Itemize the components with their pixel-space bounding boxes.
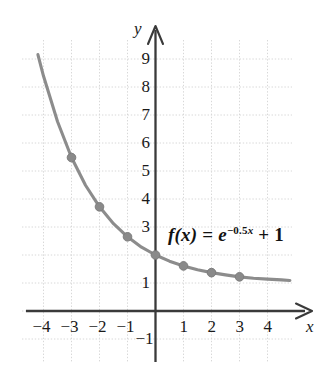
x-tick-label: −1	[117, 318, 135, 335]
exponential-function-chart: y x −4−3−2−11234 −113456789 f(x) = e−0.5…	[0, 0, 331, 385]
formula-plus: +	[253, 224, 274, 245]
x-tick-label: −2	[89, 318, 107, 335]
data-point-marker	[179, 262, 188, 271]
data-point-marker	[95, 203, 104, 212]
y-axis-label: y	[134, 20, 142, 37]
y-tick-label: 8	[142, 78, 151, 95]
y-tick-label: 5	[142, 162, 151, 179]
x-tick-label: −4	[33, 318, 51, 335]
y-tick-label: −1	[136, 330, 154, 347]
data-point-marker	[207, 268, 216, 277]
data-point-marker	[235, 273, 244, 282]
x-tick-label: −3	[61, 318, 79, 335]
y-tick-label: 7	[142, 106, 151, 123]
formula-base: e	[218, 224, 227, 245]
grid-lines	[22, 40, 292, 363]
y-tick-label: 1	[142, 274, 151, 291]
formula-equals: =	[197, 224, 218, 245]
x-tick-label: 3	[236, 318, 245, 335]
x-axis-label: x	[306, 318, 314, 335]
function-annotation: f(x) = e−0.5x + 1	[168, 224, 284, 246]
y-tick-label: 4	[142, 190, 151, 207]
data-point-marker	[123, 233, 132, 242]
data-point-marker	[67, 153, 76, 162]
y-tick-label: 9	[142, 50, 151, 67]
formula-constant: 1	[274, 224, 284, 245]
x-tick-label: 4	[264, 318, 273, 335]
formula-f: f(x)	[168, 224, 197, 245]
x-tick-label: 1	[180, 318, 189, 335]
y-tick-label: 6	[142, 134, 151, 151]
y-tick-label: 3	[142, 218, 151, 235]
formula-exponent: −0.5x	[227, 224, 254, 236]
data-point-marker	[151, 251, 160, 260]
x-tick-label: 2	[208, 318, 217, 335]
axes	[26, 26, 312, 362]
function-curve	[38, 55, 290, 281]
